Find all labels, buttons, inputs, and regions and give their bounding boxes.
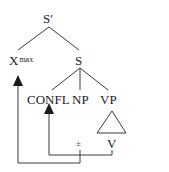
- node-confl-label: CONFL: [27, 92, 70, 107]
- node-v: V: [107, 137, 116, 150]
- trace-symbol-label: ±: [76, 138, 81, 148]
- vp-triangle: [97, 111, 126, 133]
- node-xmax-label: X: [9, 53, 18, 68]
- node-xmax: Xmax: [9, 54, 33, 67]
- node-vp-label: VP: [100, 92, 117, 107]
- node-v-label: V: [107, 136, 116, 151]
- node-s-prime: S′: [43, 12, 53, 25]
- node-s-prime-label: S′: [43, 11, 53, 26]
- node-np-label: NP: [72, 92, 89, 107]
- arrowhead-xmax-icon: [13, 75, 23, 86]
- node-np: NP: [72, 93, 89, 106]
- edge-root-xmax: [18, 27, 49, 50]
- node-vp: VP: [100, 93, 117, 106]
- tree-lines: [0, 0, 169, 172]
- node-s: S: [75, 54, 82, 67]
- node-s-label: S: [75, 53, 82, 68]
- edge-s-confl: [52, 68, 80, 90]
- edge-s-vp: [80, 68, 108, 90]
- node-xmax-superscript: max: [19, 55, 33, 64]
- trace-symbol: ±: [76, 137, 81, 150]
- node-confl: CONFL: [27, 93, 70, 106]
- edge-root-s: [49, 27, 79, 50]
